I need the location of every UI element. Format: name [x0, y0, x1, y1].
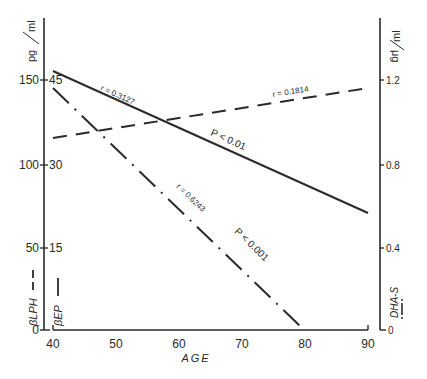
x-tick-label-90: 90: [361, 337, 375, 351]
legend-blph-label: βLPH: [27, 298, 39, 327]
left-tick-label-50: 50: [26, 241, 40, 255]
left-unit-slash: [23, 32, 39, 44]
legend-dhas-dot2: [401, 299, 403, 301]
x-tick-label-60: 60: [172, 337, 186, 351]
x-tick-label-40: 40: [46, 337, 60, 351]
annotation-p-dhas: P < 0.001: [233, 226, 272, 264]
left-unit-den: ml: [25, 20, 37, 32]
left-tick-label-100: 100: [19, 158, 39, 172]
legend-bep: βEP: [52, 278, 64, 327]
right-unit-label: ml μg: [390, 30, 404, 62]
left-tick-label-150: 150: [19, 73, 39, 87]
left-unit-label: pg ml: [23, 20, 39, 62]
legend-dhas-label: DHA-S: [389, 287, 400, 318]
right-unit-den: ml: [390, 30, 402, 42]
x-tick-label-50: 50: [109, 337, 123, 351]
x-tick-label-70: 70: [235, 337, 249, 351]
right-unit-num: μg: [390, 50, 402, 62]
annotation-p-bep: P < 0.01: [209, 127, 248, 152]
left-unit-num: pg: [25, 50, 37, 62]
right-tick-label-0.4: 0.4: [386, 243, 400, 254]
legend-bep-label: βEP: [52, 304, 64, 327]
x-axis-label: AGE: [180, 352, 210, 364]
legend-blph: βLPH: [27, 266, 39, 327]
right-tick-label-0.8: 0.8: [386, 160, 400, 171]
series-blph-line: [53, 88, 368, 138]
chart-canvas: 150 100 50 0 45 30 15 1.2 0.8 0.4 0 40 5…: [0, 0, 427, 379]
annotation-r-blph: r = 0.1814: [272, 84, 310, 99]
left-inner-tick-label-30: 30: [49, 158, 63, 172]
legend-dhas-dot: [401, 317, 403, 319]
right-tick-label-0: 0: [388, 325, 394, 336]
x-tick-label-80: 80: [298, 337, 312, 351]
series-dhas-line: [53, 88, 302, 328]
right-tick-label-1.2: 1.2: [386, 75, 400, 86]
left-inner-tick-label-15: 15: [49, 241, 63, 255]
legend-dhas: DHA-S: [389, 287, 403, 319]
